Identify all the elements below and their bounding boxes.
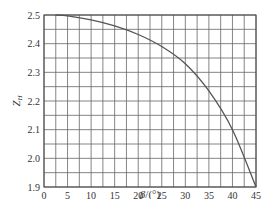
x-axis-label: β/(°): [139, 188, 161, 199]
x-tick-label: 15: [110, 190, 120, 199]
chart: 051015202530354045 1.92.02.12.22.32.42.5…: [0, 0, 265, 199]
grid-lines: [44, 15, 256, 187]
y-axis-ticks: 1.92.02.12.22.32.42.5: [28, 10, 41, 193]
x-tick-label: 0: [42, 190, 47, 199]
y-tick-label: 2.1: [28, 124, 41, 135]
x-tick-label: 30: [180, 190, 190, 199]
y-axis-label: ZH: [10, 94, 24, 106]
x-tick-label: 35: [204, 190, 214, 199]
y-tick-label: 2.4: [28, 38, 41, 49]
y-tick-label: 2.3: [28, 67, 41, 78]
x-tick-label: 40: [227, 190, 237, 199]
y-tick-label: 1.9: [28, 182, 41, 193]
x-tick-label: 10: [86, 190, 96, 199]
y-tick-label: 2.0: [28, 153, 41, 164]
x-tick-label: 45: [251, 190, 261, 199]
y-tick-label: 2.5: [28, 10, 41, 21]
x-tick-label: 5: [65, 190, 70, 199]
y-tick-label: 2.2: [28, 96, 41, 107]
